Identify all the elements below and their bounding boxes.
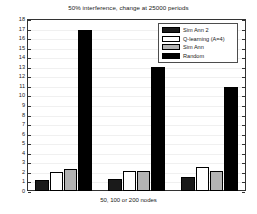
y-tick-label: 10 [9, 92, 25, 98]
y-tick-mark [28, 39, 31, 40]
y-tick-label: 5 [9, 140, 25, 146]
gridline [28, 96, 245, 97]
y-tick-mark [242, 173, 245, 174]
y-tick-mark [242, 144, 245, 145]
y-tick-mark [242, 30, 245, 31]
y-tick-mark [242, 39, 245, 40]
y-tick-mark [242, 87, 245, 88]
gridline [28, 173, 245, 174]
gridline [28, 68, 245, 69]
y-tick-mark [28, 182, 31, 183]
gridline [28, 87, 245, 88]
gridline [28, 163, 245, 164]
y-tick-label: 7 [9, 121, 25, 127]
y-tick-mark [28, 20, 31, 21]
legend-item[interactable]: Sim Ann 2 [162, 26, 234, 34]
chart-title: 50% interference, change at 25000 period… [0, 4, 257, 11]
y-tick-mark [242, 68, 245, 69]
y-tick-mark [242, 116, 245, 117]
legend-swatch-icon [162, 44, 180, 50]
x-axis-label: 50, 100 or 200 nodes [0, 197, 257, 203]
y-tick-mark [28, 96, 31, 97]
legend-item[interactable]: Random [162, 52, 234, 60]
legend-label: Sim Ann 2 [183, 26, 209, 34]
y-tick-label: 3 [9, 159, 25, 165]
y-tick-mark [28, 30, 31, 31]
y-tick-mark [242, 182, 245, 183]
y-tick-mark [242, 20, 245, 21]
legend-swatch-icon [162, 36, 180, 42]
chart-legend: Sim Ann 2Q-learning (A=4)Sim AnnRandom [158, 23, 238, 63]
y-tick-mark [242, 135, 245, 136]
y-tick-label: 4 [9, 150, 25, 156]
gridline [28, 144, 245, 145]
y-tick-mark [28, 87, 31, 88]
y-tick-mark [242, 106, 245, 107]
y-tick-mark [242, 154, 245, 155]
y-tick-mark [28, 125, 31, 126]
legend-swatch-icon [162, 27, 180, 33]
y-tick-mark [242, 58, 245, 59]
y-tick-mark [242, 192, 245, 193]
gridline [28, 116, 245, 117]
y-tick-mark [28, 77, 31, 78]
gridline [28, 182, 245, 183]
y-tick-label: 6 [9, 131, 25, 137]
y-tick-mark [242, 49, 245, 50]
y-tick-label: 0 [9, 188, 25, 194]
y-tick-label: 11 [9, 83, 25, 89]
gridline [28, 77, 245, 78]
legend-label: Q-learning (A=4) [183, 35, 225, 43]
y-tick-mark [28, 192, 31, 193]
y-tick-mark [28, 144, 31, 145]
y-tick-label: 15 [9, 45, 25, 51]
legend-label: Sim Ann [183, 43, 204, 51]
y-tick-mark [28, 173, 31, 174]
y-tick-label: 13 [9, 64, 25, 70]
gridline [28, 154, 245, 155]
y-tick-label: 8 [9, 112, 25, 118]
legend-swatch-icon [162, 53, 180, 59]
chart-figure: 50% interference, change at 25000 period… [0, 0, 257, 214]
y-tick-label: 1 [9, 178, 25, 184]
y-tick-label: 16 [9, 35, 25, 41]
y-tick-mark [28, 135, 31, 136]
y-tick-mark [242, 125, 245, 126]
y-tick-label: 14 [9, 54, 25, 60]
legend-item[interactable]: Q-learning (A=4) [162, 35, 234, 43]
y-tick-mark [242, 163, 245, 164]
y-tick-mark [28, 106, 31, 107]
y-tick-mark [242, 77, 245, 78]
y-tick-label: 2 [9, 169, 25, 175]
y-tick-label: 9 [9, 102, 25, 108]
gridline [28, 106, 245, 107]
y-tick-label: 18 [9, 16, 25, 22]
y-tick-label: 17 [9, 26, 25, 32]
y-tick-mark [28, 154, 31, 155]
gridline [28, 135, 245, 136]
legend-item[interactable]: Sim Ann [162, 43, 234, 51]
y-tick-mark [28, 58, 31, 59]
y-tick-label: 12 [9, 73, 25, 79]
y-tick-mark [242, 96, 245, 97]
y-tick-mark [28, 68, 31, 69]
y-tick-mark [28, 116, 31, 117]
gridline [28, 125, 245, 126]
y-tick-mark [28, 163, 31, 164]
legend-label: Random [183, 52, 204, 60]
y-tick-mark [28, 49, 31, 50]
